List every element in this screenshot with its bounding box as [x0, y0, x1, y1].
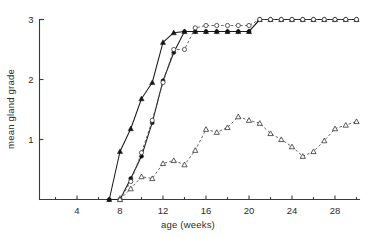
- series-2-marker-2: [139, 151, 143, 155]
- series-1-series-b-filled-circle-solid: [107, 18, 358, 202]
- y-tick-label-2: 2: [28, 74, 33, 85]
- series-2-marker-21: [344, 17, 348, 21]
- x-tick-label-16: 16: [201, 205, 212, 216]
- series-3-marker-2: [139, 174, 144, 179]
- series-2-marker-15: [279, 17, 283, 21]
- series-2-marker-18: [311, 17, 315, 21]
- series-3-marker-21: [343, 123, 348, 128]
- axis-labels-group: age (weeks) mean gland grade: [5, 69, 215, 230]
- series-3-marker-16: [289, 144, 294, 149]
- series-2-marker-20: [333, 17, 337, 21]
- series-1-marker-9: [204, 30, 208, 34]
- series-3-line: [120, 117, 357, 200]
- chart-plot-area: 123481216202428 age (weeks) mean gland g…: [0, 0, 377, 237]
- x-tick-label-20: 20: [244, 205, 255, 216]
- chart-figure: 123481216202428 age (weeks) mean gland g…: [0, 0, 377, 237]
- series-3-marker-1: [128, 186, 133, 191]
- series-3-marker-11: [236, 114, 241, 119]
- series-2-marker-19: [322, 17, 326, 21]
- y-tick-label-3: 3: [28, 14, 33, 25]
- series-2-marker-16: [290, 17, 294, 21]
- series-0-series-a-filled-triangle-solid: [107, 17, 359, 202]
- series-3-marker-9: [214, 130, 219, 135]
- y-tick-label-1: 1: [28, 134, 33, 145]
- series-2-marker-9: [215, 23, 219, 27]
- series-0-marker-1: [117, 149, 122, 154]
- series-1-marker-12: [236, 30, 240, 34]
- series-2-marker-17: [301, 17, 305, 21]
- series-3-marker-12: [246, 118, 251, 123]
- series-0-line: [109, 20, 356, 200]
- series-2-marker-5: [172, 47, 176, 51]
- series-3-marker-15: [279, 137, 284, 142]
- series-2-marker-14: [268, 17, 272, 21]
- series-2-marker-13: [258, 17, 262, 21]
- x-tick-label-24: 24: [287, 205, 298, 216]
- y-axis-title: mean gland grade: [5, 69, 16, 149]
- series-2-marker-8: [204, 23, 208, 27]
- series-2-marker-11: [236, 23, 240, 27]
- x-tick-label-8: 8: [117, 205, 122, 216]
- series-2-marker-6: [182, 47, 186, 51]
- series-3-marker-7: [193, 148, 198, 153]
- axes-group: 123481216202428: [28, 14, 359, 216]
- series-1-marker-7: [183, 30, 187, 34]
- series-2-line: [120, 20, 357, 200]
- x-axis-title: age (weeks): [161, 219, 215, 230]
- series-1-marker-11: [226, 30, 230, 34]
- series-2-marker-4: [161, 80, 165, 84]
- x-tick-label-28: 28: [330, 205, 341, 216]
- series-1-line: [109, 20, 356, 200]
- series-0-marker-2: [128, 126, 133, 131]
- series-3-marker-5: [171, 158, 176, 163]
- series-2-marker-7: [193, 26, 197, 30]
- series-3-series-d-open-triangle-dashed: [117, 114, 359, 201]
- series-3-marker-22: [354, 119, 359, 124]
- series-2-marker-22: [354, 17, 358, 21]
- series-2-marker-1: [129, 179, 133, 183]
- series-1-marker-0: [107, 198, 111, 202]
- series-1-marker-10: [215, 30, 219, 34]
- data-series-group: [107, 17, 359, 202]
- x-tick-label-4: 4: [74, 205, 79, 216]
- series-1-marker-13: [247, 30, 251, 34]
- series-2-marker-12: [247, 23, 251, 27]
- series-2-series-c-open-circle-dashed: [118, 17, 359, 201]
- series-2-marker-10: [225, 23, 229, 27]
- series-2-marker-3: [150, 118, 154, 122]
- series-3-marker-8: [203, 127, 208, 132]
- series-0-marker-4: [150, 80, 155, 85]
- x-tick-label-12: 12: [158, 205, 169, 216]
